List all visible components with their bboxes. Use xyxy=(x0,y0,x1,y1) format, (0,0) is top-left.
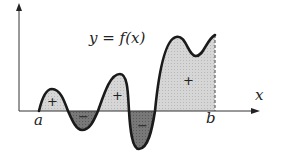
bound-b-label: b xyxy=(206,111,216,126)
region-sign-5: + xyxy=(183,74,194,87)
integral-diagram xyxy=(0,0,282,160)
function-label: y = f(x) xyxy=(89,31,145,46)
bound-a-label: a xyxy=(34,113,43,128)
y-axis-arrow-icon xyxy=(16,3,22,11)
region-sign-1: + xyxy=(47,95,58,108)
x-axis-arrow-icon xyxy=(251,108,260,114)
region-sign-2: − xyxy=(78,110,89,123)
x-axis-label: x xyxy=(255,88,263,103)
region-sign-3: + xyxy=(112,89,123,102)
region-sign-4: − xyxy=(137,119,148,132)
